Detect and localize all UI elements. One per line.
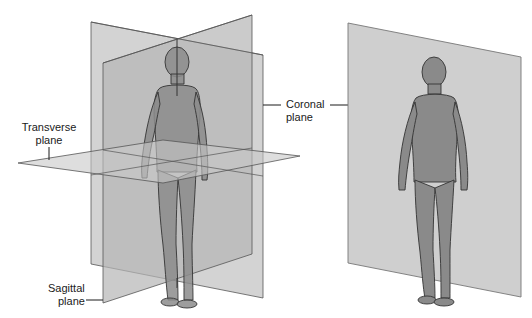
- transverse-label-line2: plane: [6, 134, 92, 147]
- left-panel: [18, 15, 300, 308]
- right-panel: [348, 23, 521, 306]
- coronal-label-line2: plane: [286, 111, 325, 124]
- transverse-plane-label: Transverse plane: [6, 121, 92, 147]
- sagittal-label-line2: plane: [48, 295, 85, 308]
- sagittal-label-line1: Sagittal: [48, 282, 85, 295]
- transverse-label-line1: Transverse: [6, 121, 92, 134]
- anatomical-planes-diagram: [0, 0, 532, 318]
- sagittal-plane-label: Sagittal plane: [48, 282, 85, 308]
- coronal-label-line1: Coronal: [286, 98, 325, 111]
- coronal-plane-label: Coronal plane: [286, 98, 325, 124]
